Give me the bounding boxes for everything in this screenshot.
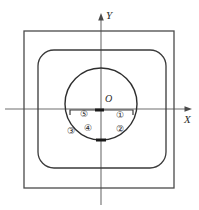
x-axis-label: X bbox=[183, 113, 192, 125]
y-axis-label: Y bbox=[106, 9, 114, 21]
region-label-3: ③ bbox=[67, 126, 75, 136]
figure-canvas: Y X O ① ② ③ ④ ⑤ bbox=[0, 0, 199, 210]
geometry-diagram: Y X O ① ② ③ ④ ⑤ bbox=[0, 0, 199, 210]
origin-label: O bbox=[105, 93, 112, 104]
region-label-4: ④ bbox=[84, 123, 92, 133]
y-axis-arrowhead bbox=[98, 13, 104, 21]
region-label-5: ⑤ bbox=[80, 109, 88, 119]
x-axis-arrowhead bbox=[185, 106, 193, 111]
region-label-1: ① bbox=[116, 110, 124, 120]
region-label-2: ② bbox=[116, 124, 124, 134]
